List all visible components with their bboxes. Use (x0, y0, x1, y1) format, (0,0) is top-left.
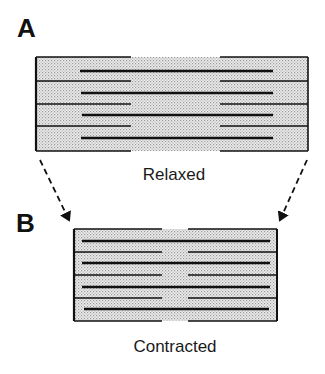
panel-b-contracted: B Contracted (16, 208, 277, 356)
right-dashed-arrow-icon (280, 160, 307, 220)
caption-contracted: Contracted (133, 337, 216, 356)
left-dashed-arrow-icon (40, 160, 69, 220)
panel-label-b: B (16, 208, 35, 238)
panel-a-relaxed: A Relaxed (17, 13, 308, 184)
panel-label-a: A (17, 13, 36, 43)
sarcomere-diagram: A Relaxed B (0, 0, 325, 374)
caption-relaxed: Relaxed (143, 165, 205, 184)
